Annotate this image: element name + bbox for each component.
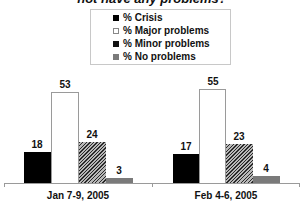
- bar-feb-minor: [226, 144, 253, 183]
- value-label-feb-none: 4: [251, 163, 281, 174]
- legend-swatch-minor-icon: [113, 41, 119, 47]
- legend-swatch-crisis-icon: [113, 15, 119, 21]
- legend-label: % Minor problems: [123, 38, 210, 49]
- value-label-jan-major: 53: [50, 79, 80, 90]
- bar-jan-minor: [79, 142, 106, 183]
- x-axis-tick: [152, 183, 153, 187]
- bar-feb-major: [199, 89, 226, 183]
- chart-title: not have any problems?: [0, 0, 304, 6]
- x-axis-tick: [299, 183, 300, 187]
- legend-label: % Crisis: [123, 12, 162, 23]
- legend-item-crisis: % Crisis: [113, 11, 162, 24]
- bar-feb-crisis: [173, 154, 199, 183]
- value-label-feb-crisis: 17: [171, 141, 201, 152]
- legend: % Crisis % Major problems % Minor proble…: [90, 9, 231, 65]
- bar-jan-major: [51, 92, 79, 183]
- legend-swatch-major-icon: [113, 28, 119, 34]
- value-label-feb-major: 55: [198, 76, 228, 87]
- value-label-feb-minor: 23: [224, 131, 254, 142]
- legend-label: % Major problems: [123, 25, 209, 36]
- legend-item-major: % Major problems: [113, 24, 209, 37]
- value-label-jan-none: 3: [104, 165, 134, 176]
- legend-label: % No problems: [123, 51, 196, 62]
- legend-item-minor: % Minor problems: [113, 37, 210, 50]
- value-label-jan-crisis: 18: [22, 139, 52, 150]
- x-axis-label-jan: Jan 7-9, 2005: [8, 190, 148, 201]
- bar-jan-crisis: [24, 152, 51, 183]
- bar-feb-none: [253, 176, 280, 183]
- legend-item-none: % No problems: [113, 50, 196, 63]
- x-axis-label-feb: Feb 4-6, 2005: [156, 190, 296, 201]
- legend-swatch-none-icon: [113, 54, 119, 60]
- value-label-jan-minor: 24: [77, 129, 107, 140]
- x-axis-tick: [4, 183, 5, 187]
